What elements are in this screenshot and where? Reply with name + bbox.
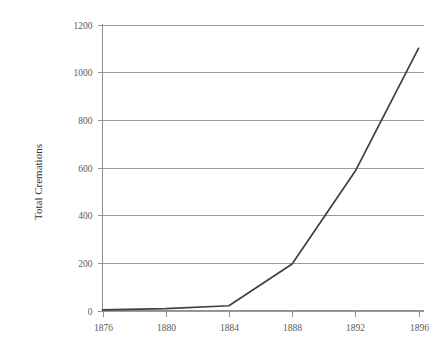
x-tick-label: 1884 <box>220 323 239 333</box>
y-tick-label: 800 <box>78 116 93 126</box>
y-tick-label: 200 <box>78 259 93 269</box>
y-tick-label: 1200 <box>74 21 93 31</box>
x-tick-label: 1888 <box>283 323 302 333</box>
chart-container: 020040060080010001200 187618801884188818… <box>0 0 443 364</box>
y-tick-label: 600 <box>78 164 93 174</box>
y-tick-label: 0 <box>88 307 93 317</box>
chart-background <box>0 0 443 364</box>
x-tick-label: 1876 <box>94 323 113 333</box>
cremations-line-chart: 020040060080010001200 187618801884188818… <box>0 0 443 364</box>
x-tick-label: 1896 <box>410 323 429 333</box>
x-tick-label: 1892 <box>346 323 365 333</box>
y-axis-title: Total Cremations <box>32 144 44 220</box>
x-tick-label: 1880 <box>157 323 176 333</box>
y-tick-label: 1000 <box>74 68 93 78</box>
y-tick-label: 400 <box>78 211 93 221</box>
